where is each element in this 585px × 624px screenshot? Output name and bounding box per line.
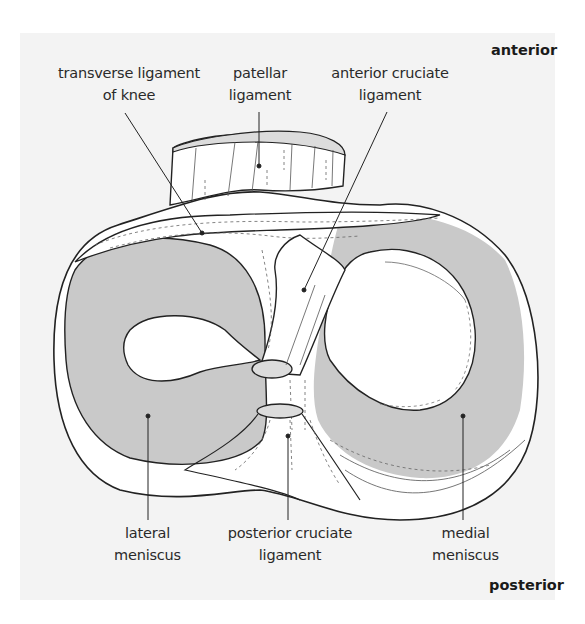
label-transverse-ligament: transverse ligament of knee [44,62,214,106]
pcl-cut-end [257,404,303,418]
acl-cut-end [252,360,292,378]
label-patellar-ligament: patellar ligament [215,62,305,106]
label-anterior-cruciate-ligament: anterior cruciate ligament [320,62,460,106]
label-lateral-meniscus: lateral meniscus [100,522,195,566]
label-medial-meniscus: medial meniscus [418,522,513,566]
orientation-posterior: posterior [489,577,564,593]
cropped-caption [20,612,565,624]
label-posterior-cruciate-ligament: posterior cruciate ligament [215,522,365,566]
orientation-anterior: anterior [491,42,557,58]
